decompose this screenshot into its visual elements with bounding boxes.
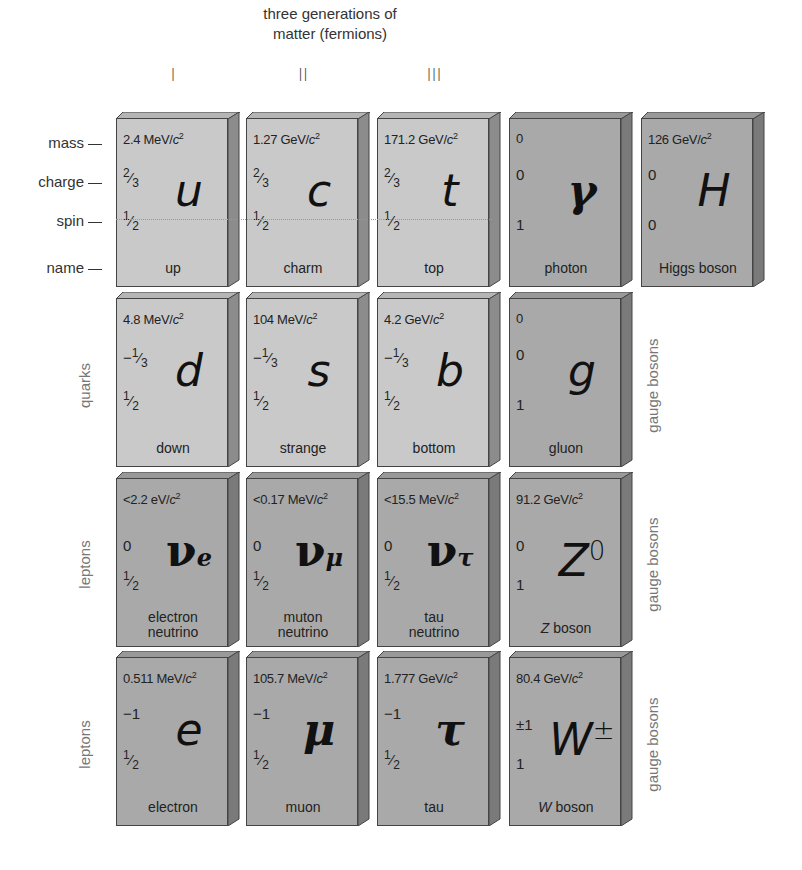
spin-value: 1⁄2 xyxy=(123,209,139,233)
particle-symbol: t xyxy=(408,161,492,221)
mass-value: 0 xyxy=(516,131,523,146)
mass-value: <2.2 eV/c2 xyxy=(123,491,180,507)
particle-name: electron xyxy=(117,800,229,815)
particle-name: strange xyxy=(247,441,359,456)
card-front: <2.2 eV/c2 0 1⁄2 νe electronneutrino xyxy=(116,478,228,647)
charge-value: ±1 xyxy=(516,716,533,733)
particle-card-muon-neutrino: <0.17 MeV/c2 0 1⁄2 νμ mutonneutrino xyxy=(246,472,360,643)
row-label-charge: charge xyxy=(22,173,102,190)
leptons-group-label-2: leptons xyxy=(76,665,93,825)
particle-name: down xyxy=(117,441,229,456)
particle-card-gluon: 0 0 1 g gluon xyxy=(509,292,623,463)
particle-name: mutonneutrino xyxy=(247,610,359,640)
particle-name: muon xyxy=(247,800,359,815)
particle-symbol: e xyxy=(147,700,231,760)
mass-value: <15.5 MeV/c2 xyxy=(384,491,459,507)
mass-value: 4.8 MeV/c2 xyxy=(123,311,184,327)
spin-value: 1⁄2 xyxy=(384,748,400,772)
mass-value: 0.511 MeV/c2 xyxy=(123,670,196,686)
mass-value: 105.7 MeV/c2 xyxy=(253,670,327,686)
particle-symbol: u xyxy=(147,161,231,221)
card-front: 0.511 MeV/c2 −1 1⁄2 e electron xyxy=(116,657,228,826)
card-front: 4.2 GeV/c2 −1⁄3 1⁄2 b bottom xyxy=(377,298,489,467)
spin-value: 1⁄2 xyxy=(384,569,400,593)
spin-value: 1⁄2 xyxy=(253,569,269,593)
spin-guide-line xyxy=(116,219,492,220)
particle-card-down: 4.8 MeV/c2 −1⁄3 1⁄2 d down xyxy=(116,292,230,463)
charge-value: −1⁄3 xyxy=(253,346,278,370)
spin-value: 1 xyxy=(516,216,524,233)
mass-value: 126 GeV/c2 xyxy=(648,131,711,147)
spin-value: 1⁄2 xyxy=(384,209,400,233)
particle-name: electronneutrino xyxy=(117,610,229,640)
spin-value: 1⁄2 xyxy=(253,209,269,233)
mass-value: 91.2 GeV/c2 xyxy=(516,491,583,507)
particle-name: charm xyxy=(247,261,359,276)
charge-value: −1⁄3 xyxy=(123,346,148,370)
tick-line xyxy=(88,144,102,145)
particle-card-up: 2.4 MeV/c2 2⁄3 1⁄2 u up xyxy=(116,112,230,283)
particle-name: up xyxy=(117,261,229,276)
charge-value: −1 xyxy=(123,705,140,722)
tick-line xyxy=(88,269,102,270)
particle-name: photon xyxy=(510,261,622,276)
particle-symbol: s xyxy=(277,341,361,401)
card-front: <15.5 MeV/c2 0 1⁄2 ντ tauneutrino xyxy=(377,478,489,647)
particle-card-muon: 105.7 MeV/c2 −1 1⁄2 μ muon xyxy=(246,651,360,822)
title-line-1: three generations of xyxy=(200,4,460,24)
spin-value: 1 xyxy=(516,576,524,593)
card-front: 0 0 1 g gluon xyxy=(509,298,621,467)
row-label-mass: mass xyxy=(22,134,102,151)
card-front: 171.2 GeV/c2 2⁄3 1⁄2 t top xyxy=(377,118,489,287)
particle-card-tau-neutrino: <15.5 MeV/c2 0 1⁄2 ντ tauneutrino xyxy=(377,472,491,643)
mass-value: 2.4 MeV/c2 xyxy=(123,131,184,147)
particle-name: gluon xyxy=(510,441,622,456)
particle-card-charm: 1.27 GeV/c2 2⁄3 1⁄2 c charm xyxy=(246,112,360,283)
spin-value: 1⁄2 xyxy=(123,389,139,413)
spin-value: 1⁄2 xyxy=(253,389,269,413)
charge-value: −1 xyxy=(253,705,270,722)
charge-value: 0 xyxy=(516,346,524,363)
particle-card-electron-neutrino: <2.2 eV/c2 0 1⁄2 νe electronneutrino xyxy=(116,472,230,643)
charge-value: 2⁄3 xyxy=(253,166,269,190)
particle-symbol: τ xyxy=(408,700,492,760)
mass-value: 0 xyxy=(516,311,523,326)
charge-value: 0 xyxy=(384,537,392,554)
mass-value: 1.777 GeV/c2 xyxy=(384,670,458,686)
spin-value: 0 xyxy=(648,216,656,233)
quarks-group-label: quarks xyxy=(76,306,93,466)
particle-symbol: c xyxy=(277,161,361,221)
charge-value: 0 xyxy=(516,166,524,183)
mass-value: 1.27 GeV/c2 xyxy=(253,131,320,147)
card-front: 1.27 GeV/c2 2⁄3 1⁄2 c charm xyxy=(246,118,358,287)
card-front: 1.777 GeV/c2 −1 1⁄2 τ tau xyxy=(377,657,489,826)
particle-name: top xyxy=(378,261,490,276)
particle-card-photon: 0 0 1 γ photon xyxy=(509,112,623,283)
particle-symbol: b xyxy=(408,341,492,401)
spin-value: 1⁄2 xyxy=(253,748,269,772)
row-label-name: name xyxy=(22,259,102,276)
charge-value: 2⁄3 xyxy=(384,166,400,190)
spin-value: 1⁄2 xyxy=(123,569,139,593)
mass-value: 80.4 GeV/c2 xyxy=(516,670,583,686)
particle-name: W boson xyxy=(510,800,622,815)
title-line-2: matter (fermions) xyxy=(200,24,460,44)
generation-3-label: III xyxy=(377,65,491,85)
charge-value: 0 xyxy=(123,537,131,554)
spin-value: 1⁄2 xyxy=(123,748,139,772)
card-front: 0 0 1 γ photon xyxy=(509,118,621,287)
particle-card-electron: 0.511 MeV/c2 −1 1⁄2 e electron xyxy=(116,651,230,822)
card-front: 4.8 MeV/c2 −1⁄3 1⁄2 d down xyxy=(116,298,228,467)
gauge-bosons-label-1: gauge bosons xyxy=(644,306,661,466)
gauge-bosons-label-2: gauge bosons xyxy=(644,485,661,645)
particle-name: tauneutrino xyxy=(378,610,490,640)
card-front: 105.7 MeV/c2 −1 1⁄2 μ muon xyxy=(246,657,358,826)
card-front: 80.4 GeV/c2 ±1 1 W± W boson xyxy=(509,657,621,826)
mass-value: 4.2 GeV/c2 xyxy=(384,311,444,327)
generation-2-label: II xyxy=(246,65,360,85)
particle-symbol: μ xyxy=(277,700,361,760)
particle-name: Higgs boson xyxy=(642,261,754,276)
charge-value: 2⁄3 xyxy=(123,166,139,190)
particle-card-strange: 104 MeV/c2 −1⁄3 1⁄2 s strange xyxy=(246,292,360,463)
particle-symbol: W± xyxy=(540,700,624,770)
